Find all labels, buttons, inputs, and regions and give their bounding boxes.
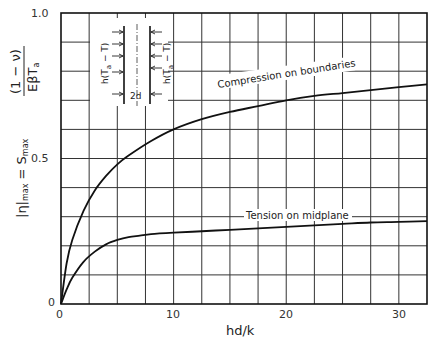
inset-right-label: h(Ta − T): [162, 43, 175, 84]
x-axis-label: hd/k: [226, 323, 255, 338]
tension-label-text: Tension on midplane: [245, 210, 349, 221]
x-tick-20: 20: [279, 308, 293, 321]
y-tick-1.0: 1.0: [31, 7, 49, 20]
x-tick-30: 30: [392, 308, 406, 321]
curve-tension-on-midplane: [61, 221, 427, 304]
chart: h(Ta − T) h(Ta − T) 2d Compression on bo…: [0, 0, 434, 344]
curve-compression-on-boundaries: [61, 84, 427, 304]
y-tick-0: 0: [48, 296, 55, 309]
inset-diagram: h(Ta − T) h(Ta − T) 2d: [90, 18, 175, 106]
x-tick-0: 0: [56, 308, 63, 321]
y-axis-label: |η|max = Smax (1 − ν) EβTa: [8, 46, 41, 218]
svg-text:EβTa: EβTa: [25, 63, 41, 92]
label-compression: Compression on boundaries: [215, 56, 356, 90]
x-tick-10: 10: [166, 308, 180, 321]
svg-text:|η|max = Smax: |η|max = Smax: [14, 138, 30, 218]
svg-text:(1 − ν): (1 − ν): [8, 49, 23, 94]
inset-thickness-label: 2d: [130, 91, 141, 101]
label-tension: Tension on midplane: [244, 209, 352, 221]
y-tick-0.5: 0.5: [31, 152, 49, 165]
